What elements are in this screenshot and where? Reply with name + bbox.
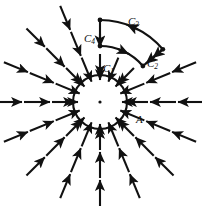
label-c1: C1 bbox=[103, 63, 114, 74]
field-arrow bbox=[155, 157, 173, 175]
vector-field-diagram bbox=[0, 0, 202, 206]
label-c1-sub: 1 bbox=[110, 67, 114, 76]
center-dot bbox=[98, 100, 101, 103]
field-arrow bbox=[71, 32, 81, 56]
field-arrow bbox=[30, 73, 54, 83]
circle-boundary-arrow bbox=[118, 78, 124, 84]
field-arrow bbox=[60, 174, 70, 198]
field-arrow bbox=[130, 174, 140, 198]
contour-node-inner-start bbox=[98, 44, 103, 49]
label-c4: C4 bbox=[84, 33, 95, 44]
field-arrow bbox=[60, 6, 70, 30]
field-arrow bbox=[66, 118, 84, 136]
field-arrow bbox=[135, 137, 153, 155]
figure-canvas: C1 C2 C3 C4 A bbox=[0, 0, 202, 206]
label-c4-sub: 4 bbox=[91, 37, 95, 46]
contour-node-inner-end bbox=[141, 64, 146, 69]
field-arrow bbox=[116, 68, 134, 86]
field-arrow bbox=[4, 132, 28, 142]
label-c2: C2 bbox=[147, 58, 158, 69]
field-arrow bbox=[46, 48, 64, 66]
field-arrow bbox=[26, 157, 44, 175]
field-arrow bbox=[116, 118, 134, 136]
label-c3-sub: 3 bbox=[135, 20, 139, 29]
field-arrow bbox=[4, 62, 28, 72]
circle-boundary-arrow bbox=[118, 120, 124, 126]
label-c2-sub: 2 bbox=[154, 62, 158, 71]
contour-arrow-c1 bbox=[119, 49, 129, 54]
field-arrow bbox=[172, 132, 196, 142]
field-arrow bbox=[119, 148, 129, 172]
field-arrow bbox=[30, 121, 54, 131]
field-arrow bbox=[26, 28, 44, 46]
field-arrow bbox=[71, 148, 81, 172]
label-region-a: A bbox=[136, 114, 143, 125]
field-arrow bbox=[172, 62, 196, 72]
circle-boundary-arrow bbox=[76, 78, 82, 84]
label-c3: C3 bbox=[128, 16, 139, 27]
field-arrow bbox=[146, 121, 170, 131]
contour-node-outer-end bbox=[160, 47, 165, 52]
contour-node-outer-start bbox=[98, 18, 103, 23]
circle-boundary-arrow bbox=[76, 120, 82, 126]
field-arrow bbox=[66, 68, 84, 86]
field-arrow bbox=[146, 73, 170, 83]
field-arrow bbox=[46, 137, 64, 155]
